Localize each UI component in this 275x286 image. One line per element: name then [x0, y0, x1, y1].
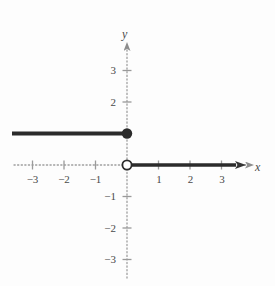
y-tick-label-3: 3 — [98, 65, 116, 76]
coordinate-plane-svg — [0, 0, 275, 286]
x-tick-label--3: −3 — [23, 174, 43, 185]
y-tick-label--3: −3 — [94, 254, 116, 265]
x-axis-label: x — [255, 161, 260, 173]
y-axis-label: y — [122, 28, 127, 40]
open-endpoint-marker — [122, 160, 131, 169]
y-tick-label--1: −1 — [94, 191, 116, 202]
y-tick-label--2: −2 — [94, 223, 116, 234]
x-tick-label-2: 2 — [181, 174, 201, 185]
x-tick-label-3: 3 — [212, 174, 232, 185]
x-tick-label--1: −1 — [86, 174, 106, 185]
y-tick-label-2: 2 — [98, 97, 116, 108]
x-tick-label-1: 1 — [149, 174, 169, 185]
closed-endpoint-marker — [122, 128, 132, 138]
graph-figure: y x −3 −2 −1 1 2 3 3 2 −1 −2 −3 — [0, 0, 275, 286]
x-tick-label--2: −2 — [54, 174, 74, 185]
